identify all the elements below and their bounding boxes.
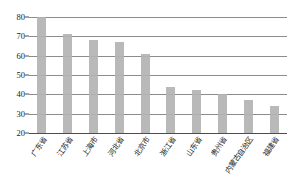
bar-chart: 20304050607080 广东省江苏省上海市河北省北京市浙江省山东省贵州省内… <box>0 0 296 190</box>
x-tick-label: 福建省 <box>262 136 280 158</box>
bar <box>270 106 279 133</box>
bar <box>166 87 175 133</box>
y-tick-label-30: 30 <box>17 109 26 118</box>
x-label-slot: 河北省 <box>106 134 132 190</box>
x-tick-label: 上海市 <box>81 136 99 158</box>
bar-slot <box>29 17 55 133</box>
x-tick-label: 江苏省 <box>56 136 74 158</box>
bar-slot <box>81 17 107 133</box>
x-label-slot: 福建省 <box>261 134 287 190</box>
bar <box>192 90 201 133</box>
x-label-slot: 上海市 <box>81 134 107 190</box>
y-tick-label-70: 70 <box>17 32 26 41</box>
plot-area: 20304050607080 <box>29 17 287 133</box>
x-tick-label: 贵州省 <box>210 136 228 158</box>
x-tick-label: 山东省 <box>185 136 203 158</box>
x-tick-label: 北京市 <box>133 136 151 158</box>
bar-slot <box>106 17 132 133</box>
bar-series <box>29 17 287 133</box>
y-tick-label-80: 80 <box>17 13 26 22</box>
bar-slot <box>158 17 184 133</box>
x-tick-label: 河北省 <box>107 136 125 158</box>
y-tick-label-20: 20 <box>17 129 26 138</box>
y-tick-label-40: 40 <box>17 90 26 99</box>
x-tick-label: 广东省 <box>30 136 48 158</box>
x-label-slot: 山东省 <box>184 134 210 190</box>
bar <box>63 34 72 133</box>
bar <box>218 94 227 133</box>
bar <box>244 100 253 133</box>
bar-slot <box>55 17 81 133</box>
y-tick-label-60: 60 <box>17 51 26 60</box>
x-label-slot: 北京市 <box>132 134 158 190</box>
bar-slot <box>261 17 287 133</box>
bar <box>115 42 124 133</box>
bar-slot <box>210 17 236 133</box>
x-label-slot: 内蒙古自治区 <box>235 134 261 190</box>
bar-slot <box>132 17 158 133</box>
bar <box>141 54 150 133</box>
x-label-slot: 江苏省 <box>55 134 81 190</box>
x-label-slot: 广东省 <box>29 134 55 190</box>
bar <box>89 40 98 133</box>
bar-slot <box>184 17 210 133</box>
x-label-slot: 浙江省 <box>158 134 184 190</box>
x-tick-label: 浙江省 <box>159 136 177 158</box>
bar-slot <box>235 17 261 133</box>
y-tick-label-50: 50 <box>17 71 26 80</box>
x-axis-labels: 广东省江苏省上海市河北省北京市浙江省山东省贵州省内蒙古自治区福建省 <box>29 134 287 190</box>
bar <box>37 17 46 133</box>
